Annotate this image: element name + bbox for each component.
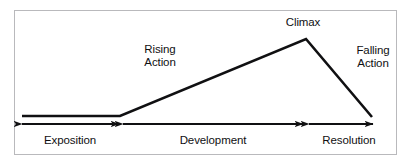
plot-diagram-stage: Rising Action Climax Falling Action Expo… <box>0 0 414 166</box>
label-rising-action: Rising Action <box>130 43 190 68</box>
label-exposition: Exposition <box>22 134 118 147</box>
label-climax: Climax <box>268 16 338 29</box>
label-resolution: Resolution <box>312 134 386 147</box>
label-falling-action: Falling Action <box>345 44 401 69</box>
narrative-arc-polyline <box>22 39 372 117</box>
label-development: Development <box>152 134 274 147</box>
